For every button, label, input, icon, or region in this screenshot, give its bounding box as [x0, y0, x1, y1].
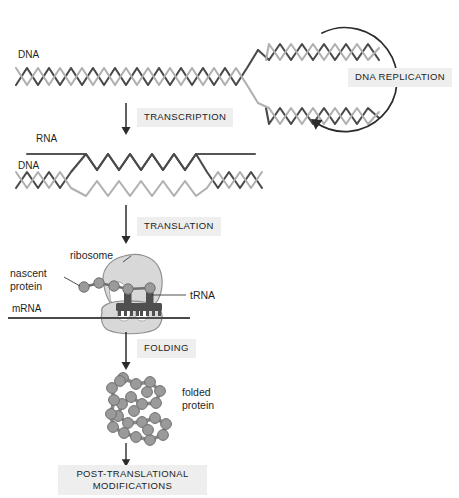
rna-label: RNA — [36, 133, 57, 145]
dna-duplex-parental — [16, 50, 258, 103]
dna-top-label: DNA — [18, 49, 39, 61]
dna-transcription-label: DNA — [18, 160, 39, 172]
transcription-bubble — [16, 154, 262, 196]
central-dogma-diagram: DNA RNA DNA mRNA ribosome nascent protei… — [0, 0, 459, 498]
step-label-dna-replication: DNA REPLICATION — [348, 68, 452, 87]
nascent-protein-leader-line — [64, 277, 80, 286]
folded-protein-globule — [106, 373, 172, 446]
step-label-translation: TRANSLATION — [137, 217, 221, 236]
dna-coding-strand-light — [16, 172, 262, 196]
nascent-protein-annotation: nascent protein — [10, 267, 47, 293]
step-label-transcription: TRANSCRIPTION — [137, 108, 233, 127]
mrna-label: mRNA — [12, 303, 41, 315]
dna-duplex-daughter-lower — [258, 103, 379, 124]
step-label-folding: FOLDING — [137, 339, 196, 358]
step-label-post-translational: POST-TRANSLATIONAL MODIFICATIONS — [58, 465, 207, 495]
rna-transcript — [27, 154, 255, 170]
dna-duplex-daughter-upper — [258, 44, 379, 60]
folded-protein-annotation: folded protein — [182, 386, 214, 412]
trna-annotation: tRNA — [190, 289, 215, 302]
ribosome-annotation: ribosome — [70, 249, 113, 262]
